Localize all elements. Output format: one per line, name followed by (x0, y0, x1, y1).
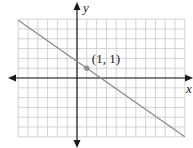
x-axis-label: x (185, 81, 192, 96)
y-axis-up-arrow-icon (74, 2, 81, 10)
x-axis-left-arrow-icon (8, 75, 16, 82)
y-axis-down-arrow-icon (74, 140, 81, 148)
point-label: (1, 1) (92, 51, 120, 66)
plotted-point (84, 66, 89, 71)
coordinate-plane: y x (1, 1) (0, 0, 193, 148)
y-axis-label: y (81, 0, 89, 15)
